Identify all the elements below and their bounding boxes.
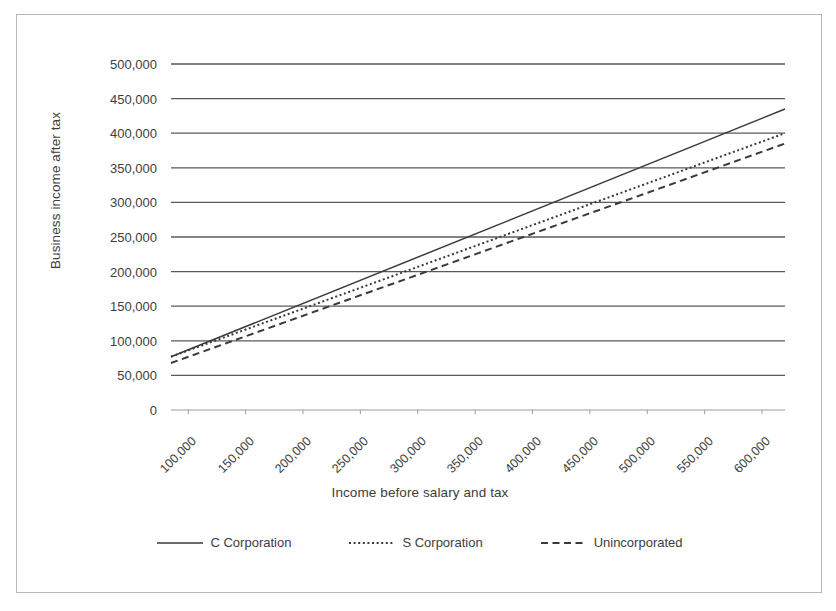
legend-item: Unincorporated (541, 535, 683, 550)
x-tick-label: 450,000 (549, 434, 601, 486)
x-tick-label: 400,000 (491, 434, 543, 486)
legend-item: S Corporation (349, 535, 482, 550)
x-tick-label: 350,000 (434, 434, 486, 486)
x-tick-label: 100,000 (147, 434, 199, 486)
legend-label: Unincorporated (594, 535, 683, 550)
legend-item: C Corporation (157, 535, 291, 550)
legend-swatch-dashed-icon (541, 538, 587, 548)
x-tick-label: 500,000 (606, 434, 658, 486)
legend-label: S Corporation (402, 535, 482, 550)
x-tick-label: 250,000 (319, 434, 371, 486)
x-axis-title: Income before salary and tax (17, 485, 823, 500)
legend-label: C Corporation (210, 535, 291, 550)
x-axis-tick-labels: 100,000150,000200,000250,000300,000350,0… (17, 15, 823, 594)
chart-frame: Business income after tax 050,000100,000… (16, 14, 822, 593)
x-tick-label: 600,000 (721, 434, 773, 486)
legend-swatch-solid-icon (157, 538, 203, 548)
x-tick-label: 200,000 (262, 434, 314, 486)
chart-legend: C CorporationS CorporationUnincorporated (17, 535, 823, 550)
x-tick-label: 550,000 (663, 434, 715, 486)
x-tick-label: 300,000 (376, 434, 428, 486)
x-tick-label: 150,000 (204, 434, 256, 486)
legend-swatch-dotted-icon (349, 538, 395, 548)
